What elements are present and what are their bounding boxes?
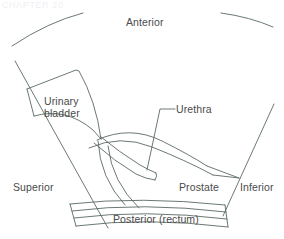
label-prostate: Prostate	[179, 182, 219, 194]
scan-sector-right-edge	[223, 104, 274, 216]
label-urethra: Urethra	[176, 104, 212, 116]
label-urinary-bladder: Urinary bladder	[44, 96, 90, 119]
label-urinary-bladder-line1: Urinary	[44, 95, 79, 107]
prostate-posterior-border-inner	[108, 146, 139, 208]
label-anterior: Anterior	[126, 17, 164, 29]
rectum-wall-cap-left	[70, 204, 76, 226]
urethra-leader-line	[147, 109, 175, 170]
label-posterior-rectum: Posterior (rectum)	[113, 214, 199, 226]
label-superior: Superior	[13, 182, 54, 194]
anatomy-diagram-svg	[0, 0, 284, 239]
urethra-tube-distal-end	[155, 173, 157, 180]
urethra-tube-lower-wall	[94, 143, 155, 180]
rectum-wall-arc-2	[72, 207, 226, 212]
prostate-dome-arc	[97, 133, 207, 166]
label-inferior: Inferior	[240, 182, 273, 194]
label-urinary-bladder-line2: bladder	[44, 107, 80, 119]
prostate-posterior-border	[98, 141, 125, 205]
transducer-arc-left	[12, 13, 83, 46]
transducer-arc-right	[221, 13, 273, 27]
anatomy-figure: CHAPTER 20	[0, 0, 284, 239]
scan-sector-left-edge	[15, 61, 108, 228]
